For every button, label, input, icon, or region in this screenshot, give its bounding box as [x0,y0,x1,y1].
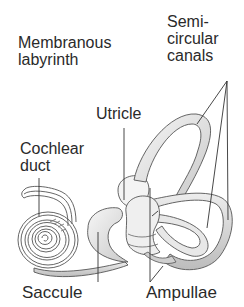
label-semicircular-canals: Semi- circular canals [167,13,219,64]
ampulla-shape [126,196,160,255]
leader-semicircular-3 [227,81,228,220]
saccule-shape [88,208,128,262]
ductus-reuniens-shape [34,262,128,277]
label-saccule: Saccule [22,284,82,302]
lower-ampulla-shape [144,252,176,264]
label-cochlear-duct: Cochlear duct [20,140,84,174]
label-utricle: Utricle [96,105,141,122]
label-membranous-labyrinth: Membranous labyrinth [18,34,111,68]
cochlear-duct-shape [18,186,78,268]
label-ampullae: Ampullae [146,284,217,302]
leader-ampullae-2 [150,266,163,282]
leader-semicircular-1 [197,81,227,124]
